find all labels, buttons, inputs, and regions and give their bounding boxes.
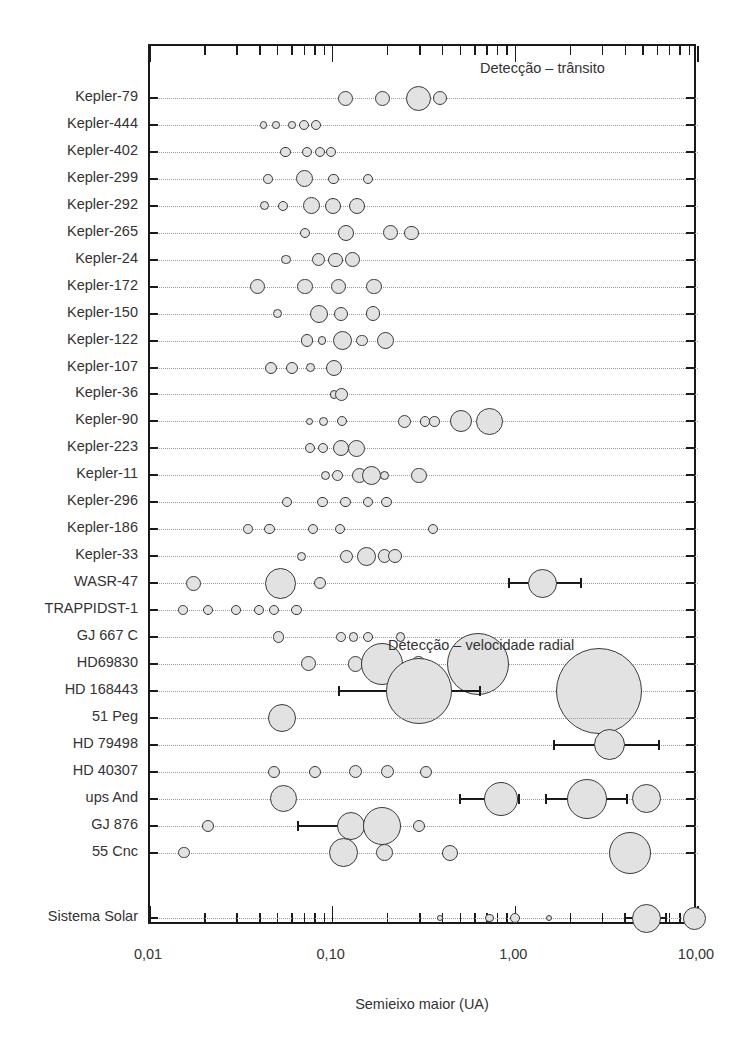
planet-marker <box>301 656 316 671</box>
planet-marker <box>333 331 352 350</box>
planet-marker <box>348 440 365 457</box>
row-tick <box>149 178 158 180</box>
row-label-kepler-292: Kepler-292 <box>67 197 138 212</box>
axis-tick-top <box>642 46 644 55</box>
planet-marker <box>377 332 394 349</box>
row-tick <box>149 744 158 746</box>
row-label-wasr-47: WASR-47 <box>74 574 138 589</box>
axis-tick-top <box>697 46 699 62</box>
row-tick <box>686 744 695 746</box>
row-tick <box>686 771 695 773</box>
row-tick <box>149 717 158 719</box>
x-axis-tick-label: 10,00 <box>678 946 714 962</box>
row-tick <box>149 420 158 422</box>
planet-marker <box>556 648 642 734</box>
row-baseline <box>150 152 698 153</box>
planet-marker <box>296 170 313 187</box>
row-label-kepler-122: Kepler-122 <box>67 332 138 347</box>
planet-marker <box>338 91 353 106</box>
row-label-kepler-150: Kepler-150 <box>67 305 138 320</box>
row-baseline <box>150 206 698 207</box>
planet-marker <box>632 904 661 933</box>
axis-tick-bottom <box>332 906 334 922</box>
chart-canvas: Detecção – trânsito Detecção – velocidad… <box>0 0 747 1040</box>
row-baseline <box>150 368 698 369</box>
row-tick <box>149 501 158 503</box>
planet-marker <box>310 305 328 323</box>
planet-marker <box>349 632 359 642</box>
row-label-kepler-186: Kepler-186 <box>67 520 138 535</box>
planet-marker <box>297 279 313 295</box>
axis-tick-top <box>291 46 293 55</box>
x-axis-title: Semieixo maior (UA) <box>355 996 489 1012</box>
row-label-kepler-172: Kepler-172 <box>67 278 138 293</box>
error-bar-cap <box>459 794 461 804</box>
axis-tick-top <box>570 46 572 55</box>
error-bar-cap <box>658 740 660 750</box>
axis-tick-top <box>332 46 334 62</box>
planet-marker <box>375 91 390 106</box>
row-tick <box>149 852 158 854</box>
planet-marker <box>363 174 373 184</box>
row-label-sistema-solar: Sistema Solar <box>48 909 138 924</box>
planet-marker <box>305 443 315 453</box>
section-label-radial: Detecção – velocidade radial <box>388 637 574 653</box>
row-tick <box>149 393 158 395</box>
axis-tick-top <box>387 46 389 55</box>
error-bar-cap <box>665 913 667 923</box>
row-tick <box>686 663 695 665</box>
planet-marker <box>260 201 269 210</box>
axis-tick-top <box>304 46 306 55</box>
planet-marker <box>326 147 336 157</box>
planet-marker <box>306 363 315 372</box>
axis-tick-top <box>497 46 499 55</box>
planet-marker <box>325 198 341 214</box>
planet-marker <box>264 524 274 534</box>
planet-marker <box>334 307 348 321</box>
planet-marker <box>254 605 264 615</box>
section-label-transit: Detecção – trânsito <box>480 60 605 76</box>
axis-tick-top <box>277 46 279 55</box>
row-label-hd-40307: HD 40307 <box>73 763 138 778</box>
row-baseline <box>150 314 698 315</box>
axis-tick-top <box>442 46 444 55</box>
row-baseline <box>150 529 698 530</box>
planet-marker <box>306 418 314 426</box>
planet-marker <box>337 812 365 840</box>
planet-marker <box>268 704 296 732</box>
planet-marker <box>386 658 452 724</box>
row-label-55-cnc: 55 Cnc <box>92 844 138 859</box>
planet-marker <box>388 549 402 563</box>
row-label-kepler-444: Kepler-444 <box>67 116 138 131</box>
row-label-hd-168443: HD 168443 <box>65 682 138 697</box>
planet-marker <box>291 605 301 615</box>
row-tick <box>686 555 695 557</box>
row-tick <box>686 259 695 261</box>
planet-marker <box>309 766 321 778</box>
planet-marker <box>340 550 353 563</box>
row-tick <box>149 232 158 234</box>
planet-marker <box>340 497 350 507</box>
planet-marker <box>362 466 381 485</box>
row-tick <box>149 528 158 530</box>
planet-marker <box>326 360 342 376</box>
planet-marker <box>356 335 368 347</box>
planet-marker <box>301 334 313 346</box>
row-baseline <box>150 448 698 449</box>
planet-marker <box>329 838 358 867</box>
row-tick <box>686 286 695 288</box>
planet-marker <box>270 785 297 812</box>
row-tick <box>149 771 158 773</box>
axis-tick-top <box>474 46 476 55</box>
planet-marker <box>484 782 518 816</box>
error-bar-cap <box>479 686 481 696</box>
row-label-kepler-24: Kepler-24 <box>75 251 138 266</box>
planet-marker <box>349 198 365 214</box>
axis-tick-top <box>259 46 261 55</box>
planet-marker <box>202 820 214 832</box>
planet-marker <box>265 362 277 374</box>
planet-marker <box>349 765 362 778</box>
row-baseline <box>150 233 698 234</box>
row-label-kepler-11: Kepler-11 <box>76 466 138 481</box>
row-tick <box>149 313 158 315</box>
